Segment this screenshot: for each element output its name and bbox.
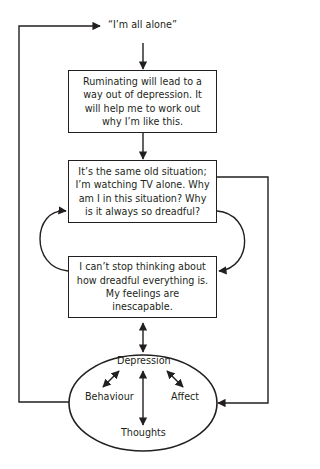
belief-box: Ruminating will lead to a way out of dep… xyxy=(68,70,217,133)
situation-box: It’s the same old situation; I’m watchin… xyxy=(68,160,217,223)
ellipse-label-affect: Affect xyxy=(171,391,199,402)
rumination-text: I can’t stop thinking about how dreadful… xyxy=(75,260,210,313)
belief-text: Ruminating will lead to a way out of dep… xyxy=(75,75,210,128)
ellipse-label-depression: Depression xyxy=(117,355,171,366)
loop-arc-left xyxy=(40,211,68,271)
arrow-depression-behaviour xyxy=(103,371,119,387)
ellipse-label-behaviour: Behaviour xyxy=(85,391,134,402)
start-label: “I’m all alone” xyxy=(108,19,177,30)
situation-text: It’s the same old situation; I’m watchin… xyxy=(75,165,210,218)
feedback-loop-right xyxy=(217,177,268,403)
loop-arc-right xyxy=(217,211,245,271)
ellipse-label-thoughts: Thoughts xyxy=(121,427,166,438)
arrow-depression-affect xyxy=(167,371,183,387)
rumination-box: I can’t stop thinking about how dreadful… xyxy=(68,256,217,318)
